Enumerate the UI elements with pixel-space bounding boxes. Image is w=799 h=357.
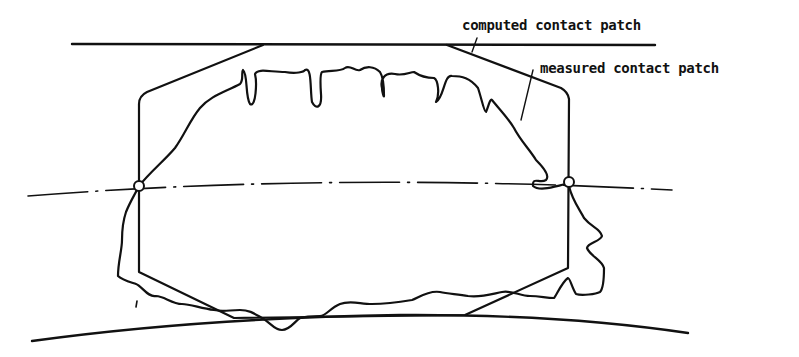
computed-contact-patch-label: computed contact patch <box>462 17 641 33</box>
small-tick-mark <box>136 301 137 307</box>
left-pivot-point <box>134 181 144 191</box>
lower-boundary-curve <box>32 315 688 341</box>
measured-contact-patch-outline <box>118 67 604 330</box>
computed-contact-patch-hexagon <box>139 45 569 318</box>
measured-label-leader <box>521 70 533 120</box>
upper-boundary-line <box>72 44 655 45</box>
measured-contact-patch-label: measured contact patch <box>540 60 719 76</box>
contact-patch-diagram <box>0 0 799 357</box>
right-pivot-point <box>564 177 574 187</box>
center-dash-dot-line <box>28 182 672 196</box>
